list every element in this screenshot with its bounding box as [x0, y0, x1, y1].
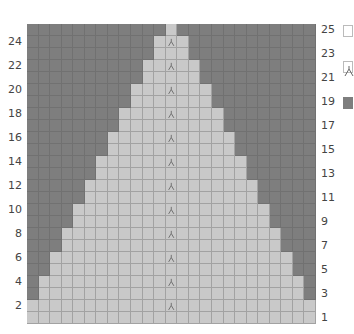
chart-cell: [154, 72, 166, 84]
chart-cell: [50, 36, 62, 48]
chart-cell: [177, 252, 189, 264]
chart-cell: [304, 216, 316, 228]
chart-cell: [85, 24, 97, 36]
chart-cell: [39, 108, 51, 120]
row-label-left: 6: [15, 252, 22, 264]
chart-cell: [235, 156, 247, 168]
chart-cell: [247, 192, 259, 204]
chart-cell: [73, 72, 85, 84]
chart-cell: [154, 168, 166, 180]
chart-cell: [39, 156, 51, 168]
chart-cell: [189, 240, 201, 252]
chart-cell: [304, 132, 316, 144]
chart-cell: [247, 312, 259, 324]
chart-cell: [235, 240, 247, 252]
chart-cell: [293, 192, 305, 204]
chart-cell: [270, 204, 282, 216]
row-label-left: 8: [15, 228, 22, 240]
chart-cell: [154, 240, 166, 252]
chart-cell: [62, 144, 74, 156]
chart-cell: [224, 84, 236, 96]
chart-cell: [73, 36, 85, 48]
chart-cell: [154, 36, 166, 48]
chart-cell: [62, 192, 74, 204]
chart-cell: [304, 168, 316, 180]
chart-cell: [96, 240, 108, 252]
chart-cell: [293, 60, 305, 72]
chart-cell: [166, 240, 178, 252]
chart-cell: [143, 72, 155, 84]
chart-cell: [73, 132, 85, 144]
chart-cell: [108, 84, 120, 96]
chart-cell: [108, 228, 120, 240]
chart-cell: [281, 72, 293, 84]
chart-cell: [39, 36, 51, 48]
chart-cell: [189, 276, 201, 288]
decrease-stitch-icon: [166, 36, 177, 47]
chart-cell: [270, 276, 282, 288]
chart-cell: [143, 252, 155, 264]
chart-cell: [50, 228, 62, 240]
chart-cell: [85, 48, 97, 60]
chart-cell: [27, 252, 39, 264]
chart-cell: [270, 60, 282, 72]
chart-cell: [200, 312, 212, 324]
chart-cell: [235, 132, 247, 144]
chart-cell: [108, 240, 120, 252]
chart-cell: [189, 72, 201, 84]
chart-cell: [258, 156, 270, 168]
chart-cell: [73, 108, 85, 120]
chart-cell: [270, 120, 282, 132]
chart-cell: [27, 72, 39, 84]
chart-cell: [200, 240, 212, 252]
chart-cell: [96, 264, 108, 276]
chart-cell: [293, 264, 305, 276]
chart-cell: [304, 192, 316, 204]
row-label-left: 18: [8, 108, 22, 120]
chart-cell: [189, 192, 201, 204]
chart-cell: [247, 84, 259, 96]
chart-cell: [50, 288, 62, 300]
chart-cell: [131, 156, 143, 168]
chart-cell: [108, 264, 120, 276]
chart-cell: [200, 24, 212, 36]
chart-cell: [62, 312, 74, 324]
chart-cell: [166, 24, 178, 36]
chart-cell: [189, 216, 201, 228]
chart-cell: [73, 180, 85, 192]
chart-cell: [212, 156, 224, 168]
chart-cell: [62, 288, 74, 300]
chart-cell: [108, 252, 120, 264]
chart-cell: [143, 228, 155, 240]
chart-cell: [166, 108, 178, 120]
chart-cell: [96, 72, 108, 84]
chart-cell: [96, 24, 108, 36]
chart-cell: [62, 24, 74, 36]
chart-cell: [235, 36, 247, 48]
chart-cell: [73, 288, 85, 300]
chart-cell: [154, 204, 166, 216]
chart-cell: [177, 48, 189, 60]
row-label-left: 20: [8, 84, 22, 96]
chart-cell: [177, 84, 189, 96]
chart-cell: [143, 24, 155, 36]
chart-cell: [50, 144, 62, 156]
chart-cell: [304, 228, 316, 240]
chart-cell: [39, 216, 51, 228]
chart-cell: [131, 60, 143, 72]
chart-cell: [258, 204, 270, 216]
chart-cell: [166, 120, 178, 132]
legend-dark-color-swatch: [343, 97, 353, 109]
chart-cell: [304, 288, 316, 300]
chart-cell: [293, 120, 305, 132]
chart-cell: [212, 264, 224, 276]
chart-cell: [166, 60, 178, 72]
chart-cell: [235, 180, 247, 192]
chart-cell: [27, 192, 39, 204]
chart-cell: [143, 276, 155, 288]
chart-cell: [258, 192, 270, 204]
chart-cell: [270, 24, 282, 36]
chart-cell: [247, 120, 259, 132]
row-label-left: 16: [8, 132, 22, 144]
chart-cell: [235, 108, 247, 120]
